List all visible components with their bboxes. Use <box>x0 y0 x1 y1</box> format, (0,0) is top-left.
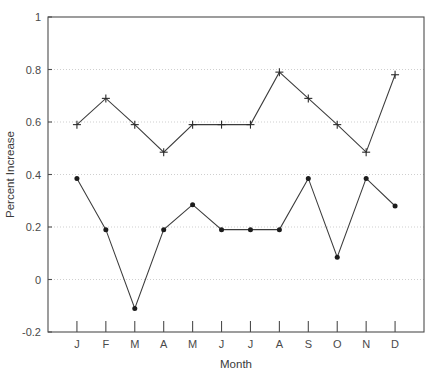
x-tick-label: M <box>130 338 139 350</box>
data-point-marker <box>219 227 224 232</box>
data-point-marker <box>74 176 79 181</box>
y-tick-marks-group <box>48 17 52 332</box>
series-lower-series <box>74 176 397 311</box>
x-tick-label: N <box>362 338 370 350</box>
gridlines-group <box>48 70 424 280</box>
data-point-marker <box>161 227 166 232</box>
series-line <box>77 178 395 308</box>
x-tick-label: J <box>74 338 80 350</box>
x-tick-labels-group: JFMAMJJASOND <box>74 338 399 350</box>
series-line <box>77 72 395 152</box>
y-tick-label: 0 <box>35 274 41 286</box>
data-point-marker <box>393 204 398 209</box>
x-tick-label: J <box>248 338 254 350</box>
y-tick-labels-group: 10.80.60.40.20-0.2 <box>22 11 41 338</box>
x-tick-label: F <box>102 338 109 350</box>
plot-frame <box>48 17 424 332</box>
y-tick-label: 0.8 <box>26 64 41 76</box>
x-tick-label: A <box>160 338 168 350</box>
x-axis-title: Month <box>220 358 252 370</box>
x-tick-label: J <box>219 338 225 350</box>
y-tick-label: 0.2 <box>26 221 41 233</box>
x-tick-label: S <box>305 338 312 350</box>
x-tick-label: O <box>333 338 342 350</box>
x-tick-label: A <box>276 338 284 350</box>
chart-figure: 10.80.60.40.20-0.2 JFMAMJJASOND Month Pe… <box>0 0 440 386</box>
data-point-marker <box>306 176 311 181</box>
x-tick-marks-group <box>77 321 395 332</box>
data-point-marker <box>248 227 253 232</box>
y-tick-label: 1 <box>35 11 41 23</box>
data-point-marker <box>132 306 137 311</box>
y-axis-title: Percent Increase <box>4 131 16 218</box>
y-tick-label: -0.2 <box>22 326 41 338</box>
x-tick-label: D <box>391 338 399 350</box>
data-point-marker <box>190 202 195 207</box>
series-upper-series <box>73 68 399 156</box>
data-point-marker <box>364 176 369 181</box>
x-tick-label: M <box>188 338 197 350</box>
line-chart: 10.80.60.40.20-0.2 JFMAMJJASOND Month Pe… <box>0 0 440 386</box>
data-series-group <box>73 68 399 311</box>
data-point-marker <box>277 227 282 232</box>
data-point-marker <box>335 255 340 260</box>
y-tick-label: 0.4 <box>26 169 41 181</box>
data-point-marker <box>103 227 108 232</box>
y-tick-label: 0.6 <box>26 116 41 128</box>
